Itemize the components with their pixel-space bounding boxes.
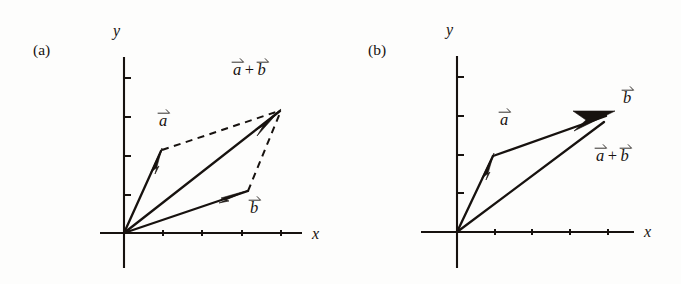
vector-a-plus-b-arrowhead — [256, 109, 281, 136]
vector-a — [124, 148, 162, 233]
plus-operator: + — [605, 146, 619, 165]
vector-b-arrowhead — [219, 190, 249, 203]
panel-a-axes — [100, 57, 302, 268]
resultant-operand-b: b — [258, 60, 266, 79]
panel-b-y-axis-label: y — [446, 22, 453, 38]
resultant-operand-a: a — [233, 60, 241, 79]
panel-a-tag: (a) — [33, 42, 50, 58]
figure-canvas — [0, 0, 681, 284]
resultant-operand-a: a — [596, 146, 604, 165]
panel-b-vector-b-label: b — [622, 90, 632, 107]
vector-addition-figure: (a) y x a b a+b (b) y x a b a+b — [0, 0, 681, 284]
vector-a-plus-b-arrowhead — [573, 111, 615, 131]
panel-b-resultant-label: a+b — [595, 148, 630, 165]
panel-a-graphics — [100, 57, 302, 268]
panel-a-vector-b-label: b — [249, 200, 259, 217]
panel-b-vector-a-label: a — [499, 112, 509, 129]
panel-a-y-axis-label: y — [113, 23, 120, 39]
vector-a-plus-b-shaft — [457, 122, 604, 232]
panel-a-vector-a-label: a — [158, 113, 168, 130]
vector-a-arrowhead — [151, 148, 162, 174]
resultant-operand-b: b — [621, 146, 629, 165]
panel-a-y-ticks — [124, 78, 131, 195]
panel-b-tag: (b) — [368, 42, 386, 58]
panel-a-construction — [162, 111, 280, 191]
panel-a-resultant-label: a+b — [232, 62, 267, 79]
plus-operator: + — [242, 60, 256, 79]
vector-b — [124, 190, 249, 233]
vector-a-plus-b — [457, 111, 615, 232]
panel-b-x-axis-label: x — [644, 224, 651, 240]
vector-a-arrowhead — [482, 153, 494, 180]
panel-a-x-axis-label: x — [312, 226, 319, 242]
